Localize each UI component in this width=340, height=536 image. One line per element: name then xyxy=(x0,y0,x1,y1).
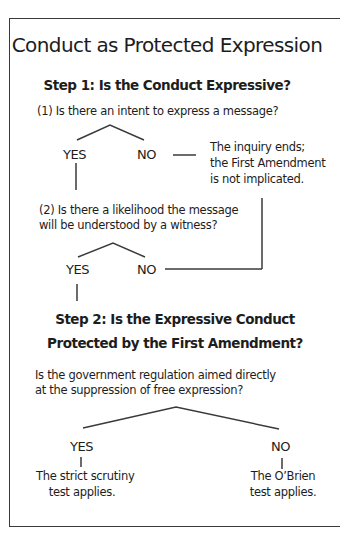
note-line-2: the First Amendment xyxy=(210,155,326,171)
inquiry-ends-note: The inquiry ends; the First Amendment is… xyxy=(210,139,326,187)
question-1: (1) Is there an intent to express a mess… xyxy=(37,104,278,119)
yes-result-line-2: test applies. xyxy=(36,484,128,500)
q1-branch-line xyxy=(77,125,144,140)
question-2: (2) Is there a likelihood the message wi… xyxy=(39,203,238,233)
q2-yes-label: YES xyxy=(66,262,89,277)
no-result-line-1: The O’Brien xyxy=(238,468,328,484)
step2-heading-line-1: Step 2: Is the Expressive Conduct xyxy=(0,307,334,331)
q2-no-label: NO xyxy=(137,262,156,277)
yes-result-line-1: The strict scrutiny xyxy=(36,468,128,484)
diagram-title: Conduct as Protected Expression xyxy=(0,33,334,57)
step2-branch-line xyxy=(83,407,279,429)
step2-heading: Step 2: Is the Expressive Conduct Protec… xyxy=(0,307,334,355)
step1-heading: Step 1: Is the Conduct Expressive? xyxy=(0,77,334,93)
step2-no-label: NO xyxy=(271,439,290,454)
strict-scrutiny-result: The strict scrutiny test applies. xyxy=(36,468,128,500)
note-line-3: is not implicated. xyxy=(210,171,326,187)
note-line-1: The inquiry ends; xyxy=(210,139,326,155)
step2-question-line-2: at the suppression of free expression? xyxy=(35,383,276,398)
step2-heading-line-2: Protected by the First Amendment? xyxy=(0,331,334,355)
step2-question: Is the government regulation aimed direc… xyxy=(35,368,276,398)
no-result-line-2: test applies. xyxy=(238,484,328,500)
step2-yes-label: YES xyxy=(70,439,93,454)
obrien-result: The O’Brien test applies. xyxy=(238,468,328,500)
q2-branch-line xyxy=(78,243,145,257)
q2-line-2: will be understood by a witness? xyxy=(39,218,238,233)
q1-yes-label: YES xyxy=(63,147,86,162)
step2-question-line-1: Is the government regulation aimed direc… xyxy=(35,368,276,383)
q2-line-1: (2) Is there a likelihood the message xyxy=(39,203,238,218)
q1-no-label: NO xyxy=(137,147,156,162)
